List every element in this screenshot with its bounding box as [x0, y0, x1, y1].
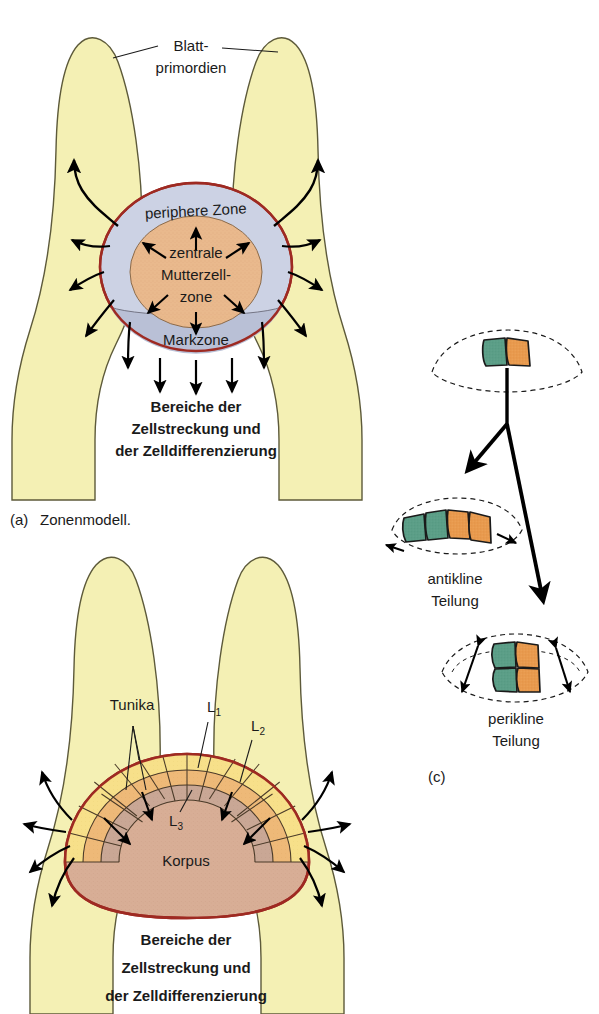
label-bereiche-a-line3: der Zelldifferenzierung: [115, 442, 277, 459]
leader-line-leaf-left: [113, 46, 158, 58]
cell-pericline-green-bottom: [493, 668, 517, 692]
botany-figure-svg: Blatt- primordien periphere Zone zentral…: [0, 0, 599, 1014]
label-zentrale-mutterzellzone-line3: zone: [180, 288, 213, 305]
label-bereiche-a-line2: Zellstreckung und: [131, 420, 260, 437]
label-perikline-line2: Teilung: [492, 732, 540, 749]
cell-initial-orange: [506, 338, 530, 366]
panel-a-zonenmodell: Blatt- primordien periphere Zone zentral…: [10, 37, 362, 528]
cell-anticline-orange-2: [469, 512, 491, 543]
cell-initial-green: [483, 338, 507, 366]
label-tunika: Tunika: [110, 696, 155, 713]
label-bereiche-a-line1: Bereiche der: [151, 398, 242, 415]
cell-anticline-green-2: [425, 510, 448, 540]
panel-c-teilungsrichtungen: antikline Teilung perikline Te: [386, 330, 588, 785]
division-fork: [468, 368, 543, 600]
label-korpus: Korpus: [162, 852, 210, 869]
label-blattprimordien-line1: Blatt-: [173, 37, 208, 54]
cell-pericline-green-top: [492, 642, 516, 668]
label-bereiche-b-line3: der Zelldifferenzierung: [105, 987, 267, 1004]
cell-pericline-orange-top: [516, 642, 539, 668]
caption-a-marker: (a): [10, 511, 28, 528]
pericline-arrow-right: [556, 648, 570, 692]
anticline-arrow-left: [386, 545, 404, 551]
caption-a-text: Zonenmodell.: [40, 511, 131, 528]
label-antikline-line2: Teilung: [431, 592, 479, 609]
label-bereiche-b-line1: Bereiche der: [141, 931, 232, 948]
anticline-arrow-right: [497, 534, 516, 543]
caption-c-marker: (c): [428, 768, 446, 785]
pericline-result: perikline Teilung: [442, 634, 588, 749]
label-bereiche-b-line2: Zellstreckung und: [121, 959, 250, 976]
downward-elongation-arrows-a: [160, 358, 232, 394]
label-perikline-line1: perikline: [488, 710, 544, 727]
anticline-result: antikline Teilung: [386, 498, 522, 609]
cell-anticline-green-1: [403, 514, 426, 542]
panel-b-tunika-korpus: Tunika L1 L2 L3 Korpus: [24, 557, 350, 1014]
cell-anticline-orange-1: [447, 510, 470, 539]
cell-pericline-orange-bottom: [517, 668, 540, 692]
label-blattprimordien-line2: primordien: [156, 59, 227, 76]
pericline-arrow-left: [462, 646, 478, 692]
figure-root: Blatt- primordien periphere Zone zentral…: [0, 0, 599, 1014]
label-zentrale-mutterzellzone-line2: Mutterzell-: [161, 266, 231, 283]
label-antikline-line1: antikline: [427, 570, 482, 587]
